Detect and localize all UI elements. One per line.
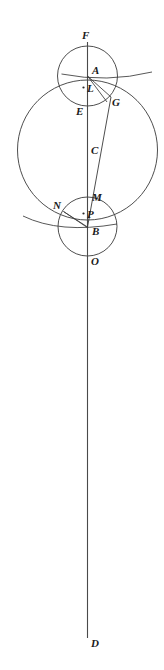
label-L: L xyxy=(87,83,94,94)
label-O: O xyxy=(91,256,99,267)
label-N: N xyxy=(53,200,61,211)
label-E: E xyxy=(76,106,83,117)
chord-through-A xyxy=(62,72,153,78)
label-G: G xyxy=(112,97,120,108)
geometry-canvas xyxy=(0,0,164,670)
label-B: B xyxy=(92,226,99,237)
label-P: P xyxy=(87,209,94,220)
label-C: C xyxy=(91,145,98,156)
geometry-figure: F A L G E C N M P B O D xyxy=(0,0,164,670)
center-dot-P xyxy=(82,212,84,214)
label-F: F xyxy=(82,30,89,41)
label-D: D xyxy=(91,638,99,649)
label-M: M xyxy=(92,192,102,203)
label-A: A xyxy=(92,65,99,76)
center-dot-L xyxy=(82,86,84,88)
